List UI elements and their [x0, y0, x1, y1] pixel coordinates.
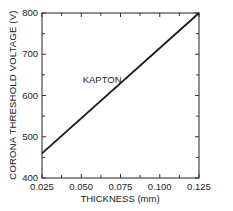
x-tick-label: 0.075 [104, 182, 138, 192]
chart-container: 4005006007008000.0250.0500.0750.1000.125… [0, 0, 233, 211]
x-tick-label: 0.025 [25, 182, 59, 192]
x-tick-label: 0.050 [64, 182, 98, 192]
x-tick-label: 0.100 [143, 182, 177, 192]
y-axis-title: CORONA THRESHOLD VOLTAGE (V) [7, 10, 18, 179]
plot-frame [42, 13, 199, 178]
x-axis-title: THICKNESS (mm) [80, 193, 159, 204]
x-tick-label: 0.125 [182, 182, 216, 192]
series-annotation-kapton: KAPTON [83, 74, 122, 85]
